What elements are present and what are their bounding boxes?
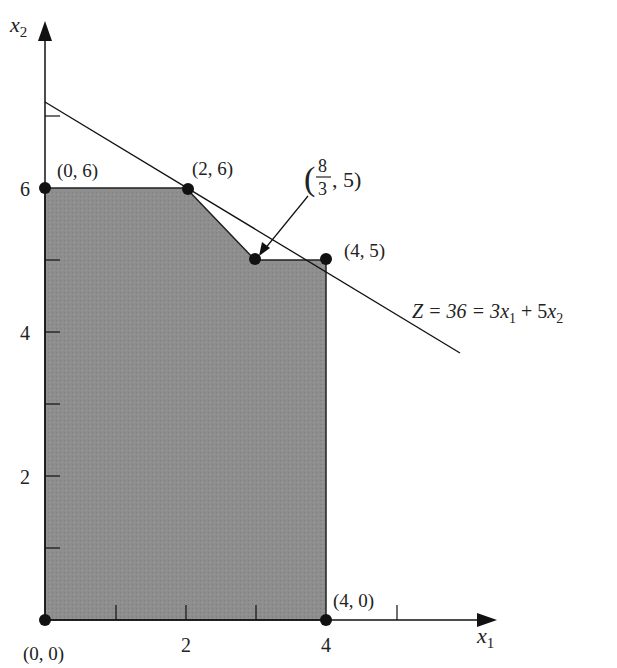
point-0-6 xyxy=(39,182,51,194)
point-4-5 xyxy=(320,253,332,265)
tick-label-y-4: 4 xyxy=(20,322,30,344)
label-point-0-0: (0, 0) xyxy=(23,643,64,665)
label-point-4-0: (4, 0) xyxy=(333,590,374,612)
label-point-0-6: (0, 6) xyxy=(57,160,98,182)
point-2-6 xyxy=(182,183,194,195)
label-point-4-5: (4, 5) xyxy=(344,240,385,262)
svg-text:3: 3 xyxy=(318,179,327,199)
tick-label-y-2: 2 xyxy=(20,466,30,488)
point-4-0 xyxy=(320,614,332,626)
point-0-0 xyxy=(39,614,51,626)
svg-text:(: ( xyxy=(304,160,315,198)
tick-label-y-6: 6 xyxy=(20,178,30,200)
linear-programming-chart: 2 4 2 4 6 x2 x1 (0, 6) (2, 6) (4, 5) (4,… xyxy=(0,0,617,668)
annotation-arrow xyxy=(264,196,308,250)
svg-text:8: 8 xyxy=(318,156,327,176)
y-axis-label: x2 xyxy=(9,12,27,40)
x-axis-label: x1 xyxy=(476,623,494,651)
y-axis-arrow-icon xyxy=(38,21,52,41)
objective-equation: Z = 36 = 3x1 + 5x2 xyxy=(412,300,563,326)
tick-label-x-4: 4 xyxy=(321,634,331,656)
label-point-2-6: (2, 6) xyxy=(192,158,233,180)
feasible-region xyxy=(45,188,326,620)
point-8-3-5 xyxy=(249,253,261,265)
svg-text:, 5): , 5) xyxy=(332,167,361,192)
label-point-8-3-5: ( 8 3 , 5) xyxy=(304,156,361,199)
tick-label-x-2: 2 xyxy=(181,634,191,656)
